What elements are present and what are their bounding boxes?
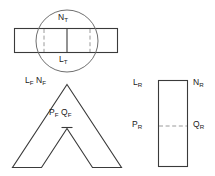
front-view-figure bbox=[13, 85, 122, 168]
top-rectangle bbox=[15, 29, 118, 53]
right-rectangle bbox=[159, 81, 188, 167]
label-pf-qf: PFQF bbox=[49, 108, 72, 117]
right-view-figure bbox=[159, 81, 188, 167]
label-nt: NT bbox=[58, 13, 68, 22]
diagram-canvas: NT LT LFNF PFQF LR NR PR QR bbox=[0, 0, 215, 176]
label-nr: NR bbox=[193, 78, 204, 87]
front-chevron-outline bbox=[13, 85, 122, 168]
diagram-vector-layer bbox=[0, 0, 215, 176]
label-lt: LT bbox=[59, 55, 68, 64]
label-qr: QR bbox=[193, 120, 204, 129]
label-lf-nf: LFNF bbox=[25, 76, 46, 85]
label-pr: PR bbox=[132, 120, 142, 129]
label-lr: LR bbox=[133, 78, 142, 87]
